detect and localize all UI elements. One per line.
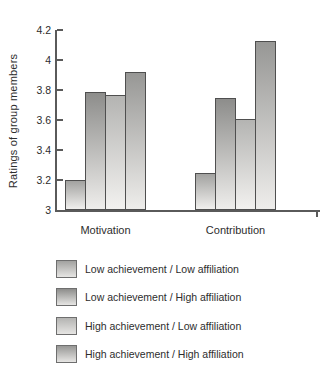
y-tick-label: 3.8 xyxy=(14,84,51,96)
legend-label: High achievement / High affiliation xyxy=(85,348,244,360)
y-tick-mark xyxy=(57,59,63,61)
y-tick-label: 3.6 xyxy=(14,114,51,126)
y-tick-label: 4.2 xyxy=(14,24,51,36)
y-tick-label: 3.2 xyxy=(14,174,51,186)
y-tick-mark xyxy=(57,119,63,121)
bar xyxy=(125,72,146,210)
category-label: Motivation xyxy=(80,224,130,236)
category-label: Contribution xyxy=(206,224,265,236)
legend-swatch xyxy=(56,317,77,335)
legend-swatch xyxy=(56,288,77,306)
y-tick-mark xyxy=(57,89,63,91)
y-tick-mark xyxy=(57,29,63,31)
y-tick-label: 4 xyxy=(14,54,51,66)
bar xyxy=(105,95,126,211)
legend-label: Low achievement / Low affiliation xyxy=(85,263,239,275)
legend-swatch xyxy=(56,260,77,278)
y-tick-mark xyxy=(57,149,63,151)
legend-item: High achievement / High affiliation xyxy=(56,344,244,363)
bar xyxy=(215,98,236,211)
legend-label: Low achievement / High affiliation xyxy=(85,291,241,303)
y-tick-label: 3 xyxy=(14,204,51,216)
bar xyxy=(255,41,276,211)
y-tick-mark xyxy=(57,179,63,181)
legend-item: Low achievement / High affiliation xyxy=(56,287,241,306)
bar xyxy=(235,119,256,211)
legend-label: High achievement / Low affiliation xyxy=(85,320,241,332)
legend: Low achievement / Low affiliationLow ach… xyxy=(0,250,327,375)
legend-swatch xyxy=(56,345,77,363)
chart-area: Ratings of group members 33.23.43.63.844… xyxy=(0,0,327,250)
y-tick-label: 3.4 xyxy=(14,144,51,156)
x-axis-end-tick-mark xyxy=(316,210,318,217)
legend-item: High achievement / Low affiliation xyxy=(56,316,241,335)
bar-chart-figure: Ratings of group members 33.23.43.63.844… xyxy=(0,0,327,375)
bar xyxy=(65,180,86,210)
bar xyxy=(195,173,216,211)
legend-item: Low achievement / Low affiliation xyxy=(56,259,239,278)
bar xyxy=(85,92,106,211)
